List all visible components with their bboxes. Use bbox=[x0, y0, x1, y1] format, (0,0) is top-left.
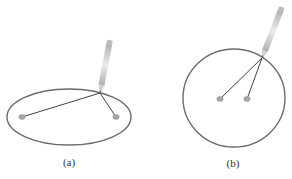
string-1 bbox=[22, 93, 100, 117]
panel-a-ellipse bbox=[7, 39, 131, 145]
pin-icon bbox=[113, 115, 119, 120]
string-1 bbox=[220, 58, 262, 99]
pin-icon bbox=[244, 97, 250, 102]
pin-icon bbox=[19, 115, 25, 120]
pencil-icon bbox=[97, 39, 113, 93]
ellipse-drawing-diagram bbox=[0, 0, 292, 179]
pencil-icon bbox=[259, 6, 285, 59]
string-2 bbox=[247, 58, 262, 99]
pin-icon bbox=[217, 97, 223, 102]
pencil-body bbox=[99, 43, 113, 85]
circle-outline bbox=[183, 49, 285, 147]
ellipse-outline bbox=[7, 89, 131, 145]
string-2 bbox=[100, 93, 116, 117]
caption-b: (b) bbox=[227, 157, 240, 169]
panel-b-circle bbox=[183, 6, 285, 147]
pencil-body bbox=[262, 10, 283, 52]
caption-a: (a) bbox=[63, 156, 75, 168]
